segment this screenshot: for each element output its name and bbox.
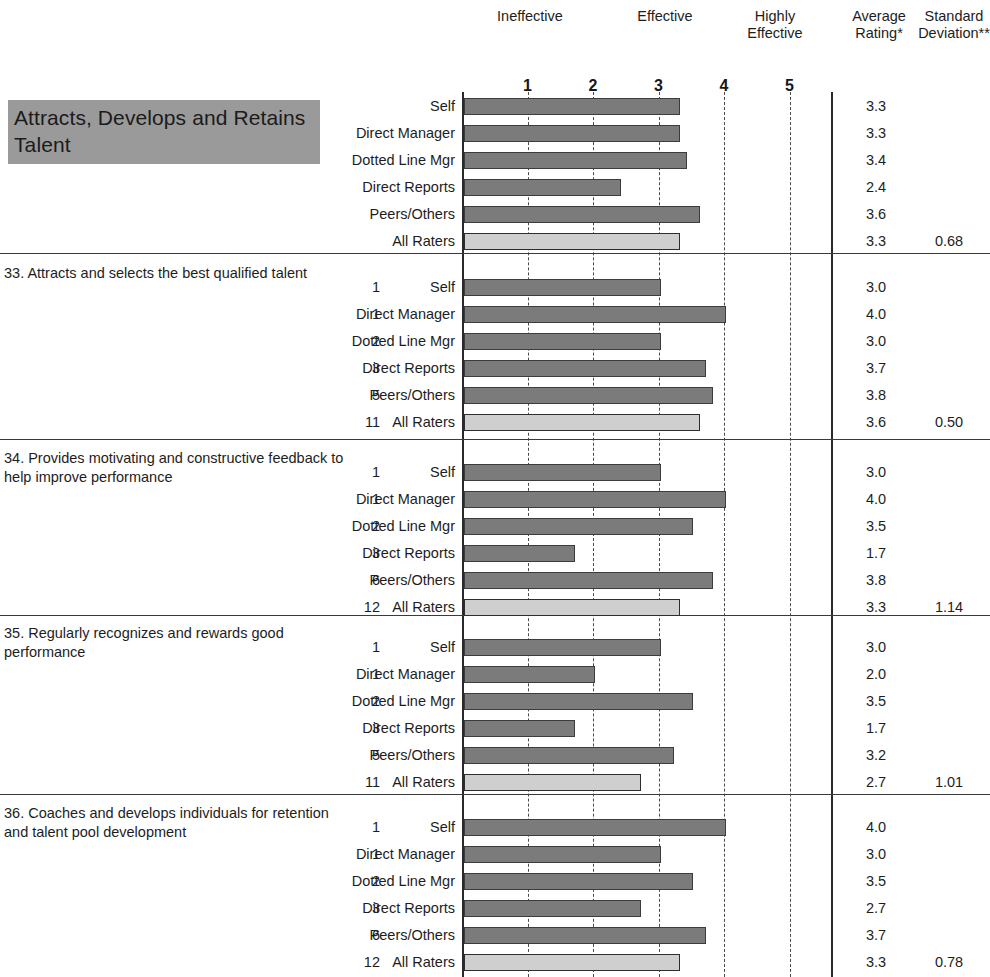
- rating-bar: [464, 125, 680, 142]
- section-separator: [0, 253, 990, 254]
- report-page: Ineffective Effective Highly Effective A…: [0, 0, 990, 977]
- rating-bar: [464, 518, 693, 535]
- average-rating-value: 3.7: [845, 358, 907, 379]
- rater-group-label: All Raters: [300, 952, 455, 973]
- standard-deviation-value: 1.14: [916, 597, 982, 618]
- rater-group-label: Direct Manager: [300, 844, 455, 865]
- rating-bar: [464, 464, 661, 481]
- table-row: 12All Raters3.30.78: [0, 952, 990, 974]
- average-rating-value: 3.0: [845, 462, 907, 483]
- section-separator: [0, 439, 990, 440]
- rater-group-label: Peers/Others: [300, 745, 455, 766]
- table-row: 2Dotted Line Mgr3.5: [0, 691, 990, 713]
- average-rating-value: 4.0: [845, 304, 907, 325]
- rater-group-label: Direct Manager: [300, 123, 455, 144]
- table-row: 2Dotted Line Mgr3.5: [0, 516, 990, 538]
- column-header-average-rating-line1: Average: [836, 8, 922, 25]
- average-rating-value: 2.7: [845, 898, 907, 919]
- table-row: 11All Raters3.60.50: [0, 412, 990, 434]
- rater-group-label: Dotted Line Mgr: [300, 871, 455, 892]
- table-row: 1Self4.0: [0, 817, 990, 839]
- rating-bar: [464, 98, 680, 115]
- table-row: 2Dotted Line Mgr3.5: [0, 871, 990, 893]
- average-rating-value: 2.0: [845, 664, 907, 685]
- table-row: 12All Raters3.31.14: [0, 597, 990, 619]
- rating-bar: [464, 572, 713, 589]
- scale-label-ineffective: Ineffective: [470, 8, 590, 25]
- average-rating-value: 3.0: [845, 331, 907, 352]
- average-rating-value: 3.0: [845, 277, 907, 298]
- rater-group-label: Direct Manager: [300, 664, 455, 685]
- table-row: 3Direct Reports2.7: [0, 898, 990, 920]
- rater-group-label: Self: [300, 96, 455, 117]
- table-row: Dotted Line Mgr3.4: [0, 150, 990, 172]
- table-row: 3Direct Reports3.7: [0, 358, 990, 380]
- rating-bar: [464, 720, 575, 737]
- rating-bar: [464, 360, 706, 377]
- scale-label-highly-effective-line1: Highly: [726, 8, 824, 25]
- rating-bar: [464, 599, 680, 616]
- table-row: 1Direct Manager2.0: [0, 664, 990, 686]
- average-rating-value: 3.3: [845, 123, 907, 144]
- table-row: 1Self3.0: [0, 637, 990, 659]
- scale-label-effective: Effective: [610, 8, 720, 25]
- rating-bar: [464, 233, 680, 250]
- rater-group-label: All Raters: [300, 231, 455, 252]
- rater-group-label: All Raters: [300, 597, 455, 618]
- rating-bar: [464, 179, 621, 196]
- column-header-standard-deviation-line2: Deviation**: [918, 25, 990, 42]
- rating-bar: [464, 774, 641, 791]
- section-separator: [0, 794, 990, 795]
- rater-group-label: All Raters: [300, 772, 455, 793]
- rating-bar: [464, 693, 693, 710]
- rater-group-label: Self: [300, 637, 455, 658]
- average-rating-value: 3.5: [845, 871, 907, 892]
- rater-group-label: Direct Reports: [300, 718, 455, 739]
- rater-group-label: Dotted Line Mgr: [300, 150, 455, 171]
- rater-group-label: Dotted Line Mgr: [300, 691, 455, 712]
- rater-group-label: Direct Reports: [300, 358, 455, 379]
- rating-bar: [464, 387, 713, 404]
- table-row: 2Dotted Line Mgr3.0: [0, 331, 990, 353]
- rating-bar: [464, 954, 680, 971]
- average-rating-value: 3.0: [845, 844, 907, 865]
- average-rating-value: 1.7: [845, 543, 907, 564]
- rater-group-label: Dotted Line Mgr: [300, 516, 455, 537]
- average-rating-value: 3.6: [845, 412, 907, 433]
- table-row: 1Self3.0: [0, 462, 990, 484]
- column-header-average-rating: Average Rating*: [836, 8, 922, 42]
- rating-bar: [464, 873, 693, 890]
- rating-bar: [464, 206, 700, 223]
- average-rating-value: 3.4: [845, 150, 907, 171]
- table-row: 1Direct Manager4.0: [0, 489, 990, 511]
- table-row: 1Self3.0: [0, 277, 990, 299]
- column-header-average-rating-line2: Rating*: [836, 25, 922, 42]
- rater-group-label: Peers/Others: [300, 385, 455, 406]
- average-rating-value: 3.5: [845, 691, 907, 712]
- table-row: 3Direct Reports1.7: [0, 543, 990, 565]
- average-rating-value: 2.7: [845, 772, 907, 793]
- rating-bar: [464, 279, 661, 296]
- average-rating-value: 3.3: [845, 597, 907, 618]
- rater-group-label: Dotted Line Mgr: [300, 331, 455, 352]
- rating-bar: [464, 927, 706, 944]
- standard-deviation-value: 0.50: [916, 412, 982, 433]
- average-rating-value: 3.5: [845, 516, 907, 537]
- rating-bar: [464, 666, 595, 683]
- table-row: 1Direct Manager4.0: [0, 304, 990, 326]
- standard-deviation-value: 1.01: [916, 772, 982, 793]
- table-row: Peers/Others3.6: [0, 204, 990, 226]
- table-row: Direct Manager3.3: [0, 123, 990, 145]
- average-rating-value: 4.0: [845, 817, 907, 838]
- rater-group-label: Self: [300, 277, 455, 298]
- rater-group-label: Direct Reports: [300, 543, 455, 564]
- rater-group-label: Direct Reports: [300, 898, 455, 919]
- rater-group-label: Self: [300, 462, 455, 483]
- rating-bar: [464, 639, 661, 656]
- column-header-standard-deviation: Standard Deviation**: [918, 8, 990, 42]
- rating-bar: [464, 900, 641, 917]
- rating-bar: [464, 152, 687, 169]
- table-row: 1Direct Manager3.0: [0, 844, 990, 866]
- average-rating-value: 3.3: [845, 231, 907, 252]
- average-rating-value: 3.6: [845, 204, 907, 225]
